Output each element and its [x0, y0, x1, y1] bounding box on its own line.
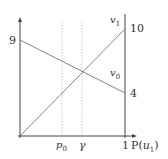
y-tick-10: 10: [130, 23, 144, 34]
series-v1-line: [20, 29, 125, 136]
series-v1-label: v1: [110, 15, 120, 28]
x-axis-label-suffix: ): [154, 139, 158, 152]
y-tick-4: 4: [130, 88, 137, 99]
x-axis-label: P(u1): [131, 140, 159, 154]
v0-label-sub: 0: [116, 73, 120, 81]
y-tick-9: 9: [9, 35, 16, 46]
x-tick-gamma: γ: [79, 140, 86, 151]
x-axis-label-prefix: P(: [131, 139, 143, 152]
y-axis-arrow-icon: [18, 17, 22, 22]
x-tick-1: 1: [122, 140, 129, 151]
p0-sub: 0: [62, 145, 66, 153]
x-axis-arrow-icon: [132, 134, 137, 138]
series-v0-label: v0: [110, 68, 120, 81]
x-axis-label-var: u: [143, 139, 150, 152]
v1-label-sub: 1: [116, 20, 120, 28]
chart: 9 10 4 v1 v0 p0 γ 1 P(u1): [0, 0, 168, 159]
x-tick-p0: p0: [56, 140, 67, 153]
